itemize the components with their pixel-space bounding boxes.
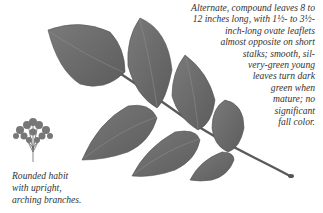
description-line: stalks; smooth, sil- <box>175 48 315 59</box>
habit-caption: Rounded habit with upright, arching bran… <box>12 170 102 206</box>
description-line: 12 inches long, with 1½- to 3½- <box>175 13 315 24</box>
description-line: leaves turn dark <box>175 70 315 81</box>
caption-line: arching branches. <box>12 194 102 206</box>
description-line: mature; no <box>175 93 315 104</box>
description-line: very-green young <box>175 59 315 70</box>
description-line: Alternate, compound leaves 8 to <box>175 2 315 13</box>
description-line: inch-long ovate leaflets <box>175 25 315 36</box>
caption-line: with upright, <box>12 182 102 194</box>
description-line: almost opposite on short <box>175 36 315 47</box>
leaf-description: Alternate, compound leaves 8 to 12 inche… <box>175 2 315 127</box>
description-line: fall color. <box>175 116 315 127</box>
description-line: green when <box>175 82 315 93</box>
caption-line: Rounded habit <box>12 170 102 182</box>
description-line: significant <box>175 105 315 116</box>
shrub-silhouette-icon <box>10 112 56 164</box>
